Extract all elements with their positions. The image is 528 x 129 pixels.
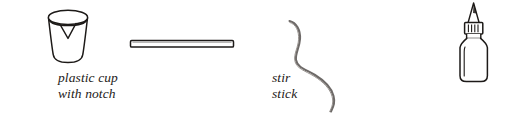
materials-figure: plastic cup with notch stir stick wire bbox=[0, 0, 528, 129]
stir-stick-icon bbox=[124, 2, 244, 72]
liquid-detergent-bottle-icon bbox=[420, 0, 528, 90]
wire-icon bbox=[270, 2, 380, 127]
illustration-wire: wire bbox=[270, 2, 380, 127]
illustration-liquid-detergent: liquid detergent bbox=[420, 0, 528, 129]
caption-plastic-cup: plastic cup with notch bbox=[58, 70, 118, 101]
illustration-stir-stick: stir stick bbox=[124, 2, 244, 127]
